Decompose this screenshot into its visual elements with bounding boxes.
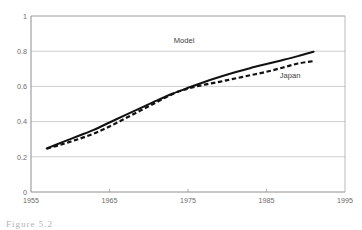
line-chart: 00.20.40.60.81 19551965197519851995 Mode… xyxy=(0,0,362,230)
series-label-japan: Japan xyxy=(280,71,301,80)
x-tick-label-0: 1955 xyxy=(23,196,39,205)
figure-root: 00.20.40.60.81 19551965197519851995 Mode… xyxy=(0,0,362,230)
figure-caption: Figure 5.2 xyxy=(6,219,126,230)
y-tick-label-5: 1 xyxy=(23,12,27,21)
series-label-model: Model xyxy=(174,36,195,45)
y-tick-label-2: 0.4 xyxy=(17,117,27,126)
x-tick-label-1: 1965 xyxy=(102,196,118,205)
x-tick-label-2: 1975 xyxy=(180,196,196,205)
y-tick-label-1: 0.2 xyxy=(17,153,27,162)
x-tick-label-3: 1985 xyxy=(259,196,275,205)
y-tick-label-3: 0.6 xyxy=(17,82,27,91)
x-tick-label-4: 1995 xyxy=(337,196,353,205)
y-tick-label-4: 0.8 xyxy=(17,47,27,56)
